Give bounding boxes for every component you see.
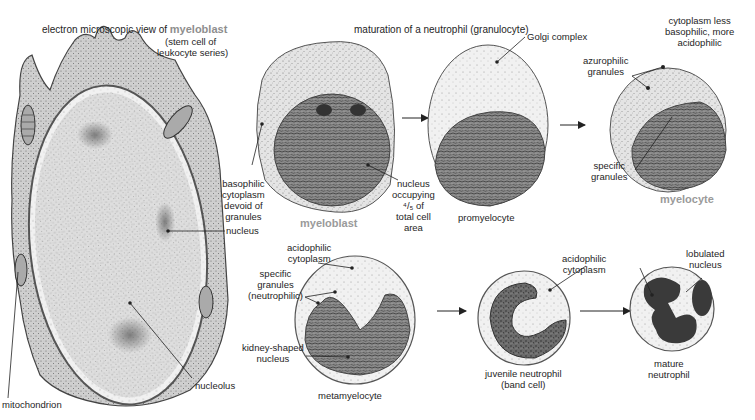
text-line: nucleus [686,259,725,270]
text-line: devoid of [222,200,265,211]
stage-title-myeloblast: myeloblast [300,217,357,229]
text-line: basophilic [222,178,265,189]
text-line: azurophilic [583,55,628,66]
juvenile-neutrophil-cell [478,266,586,365]
label-myelocyte-cytoplasm: cytoplasm less basophilic, more acidophi… [665,15,734,48]
label-acidophilic-cytoplasm: acidophilic cytoplasm [287,242,331,264]
stage-title-metamyelocyte: metamyelocyte [318,390,382,401]
text-line: granules [248,279,303,290]
label-juvenile-acidophilic-cytoplasm: acidophilic cytoplasm [562,253,606,275]
maturation-header: maturation of a neutrophil (granulocyte) [354,24,529,35]
label-mitochondrion: mitochondrion [2,399,62,410]
text-line: neutrophil [648,369,690,380]
label-lobulated-nucleus: lobulated nucleus [686,248,725,270]
text-line: cytoplasm [222,189,265,200]
stage-title-juvenile-neutrophil: juvenile neutrophil (band cell) [485,368,562,390]
em-header-line2: (stem cell of [165,36,216,47]
em-header-prefix: electron microscopic view of [42,24,167,35]
text-line: granules [591,171,627,182]
stage-title-myelocyte: myelocyte [660,193,714,205]
label-azurophilic-granules: azurophilic granules [583,55,628,77]
text-line: kidney-shaped [242,342,304,353]
em-header-emphasis: myeloblast [170,23,227,35]
label-golgi-complex: Golgi complex [527,31,587,42]
label-myeloblast-nucleus: nucleus occupying ⁴/₅ of total cell area [392,178,435,233]
label-nucleus: nucleus [226,225,259,236]
mature-neutrophil-cell [630,267,714,351]
text-line: (band cell) [485,379,562,390]
label-basophilic-cytoplasm: basophilic cytoplasm devoid of granules [222,178,265,222]
text-line: mature [648,358,690,369]
text-line: specific [591,160,627,171]
text-line: cytoplasm [287,253,331,264]
label-kidney-shaped-nucleus: kidney-shaped nucleus [242,342,304,364]
text-line: juvenile neutrophil [485,368,562,379]
text-line: specific [248,268,303,279]
text-line: cytoplasm [562,264,606,275]
label-nucleolus: nucleolus [195,380,235,391]
stage-title-promyelocyte: promyelocyte [458,212,515,223]
em-header-line3: leukocyte series) [157,47,228,58]
text-line: lobulated [686,248,725,259]
text-line: granules [583,66,628,77]
myeloblast-cell [252,42,398,213]
text-line: area [392,222,435,233]
text-line: total cell [392,211,435,222]
promyelocyte-cell [428,37,548,206]
diagram-artwork [0,0,755,420]
text-line: basophilic, more [665,26,734,37]
text-line: occupying [392,189,435,200]
metamyelocyte-cell [295,256,415,384]
text-line: nucleus [392,178,435,189]
label-specific-granules: specific granules [591,160,627,182]
text-line: acidophilic [562,253,606,264]
text-line: ⁴/₅ of [392,200,435,211]
text-line: acidophilic [287,242,331,253]
em-header: electron microscopic view of myeloblast [42,24,227,35]
text-line: nucleus [242,353,304,364]
text-line: cytoplasm less [665,15,734,26]
label-specific-granules-neutrophilic: specific granules (neutrophilic) [248,268,303,301]
text-line: (neutrophilic) [248,290,303,301]
text-line: acidophilic [665,37,734,48]
text-line: granules [222,211,265,222]
em-myeloblast-cell [8,26,228,413]
stage-title-mature-neutrophil: mature neutrophil [648,358,690,380]
